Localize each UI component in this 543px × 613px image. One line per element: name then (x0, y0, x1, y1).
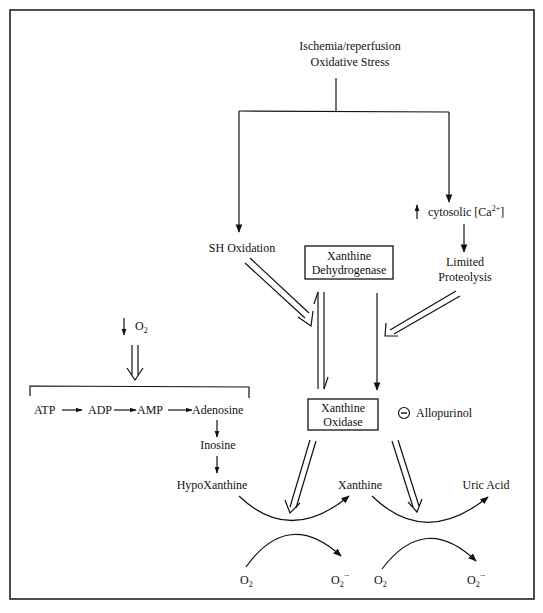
reaction1-superoxide: O2·- (331, 571, 349, 589)
atp-chain-bracket (30, 386, 249, 398)
svg-text:O2·-: O2·- (331, 571, 349, 589)
cytosolic-calcium-label: cytosolic [Ca2+] (417, 204, 504, 219)
svg-text:Adenosine: Adenosine (192, 403, 243, 417)
reaction2-superoxide: O2·- (467, 571, 485, 589)
svg-text:O2: O2 (374, 573, 387, 589)
dehydrogenase-oxidase-equilibrium-arrows (314, 292, 377, 390)
svg-text:ATP: ATP (34, 403, 56, 417)
reaction1-oxygen: O2 (240, 573, 253, 589)
title-oxidative-stress: Oxidative Stress (311, 55, 390, 69)
allopurinol-inhibitor: Allopurinol (399, 406, 473, 420)
hypoxanthine-label: HypoXanthine (177, 478, 248, 492)
svg-text:O2: O2 (240, 573, 253, 589)
svg-text:cytosolic [Ca2+]: cytosolic [Ca2+] (428, 204, 504, 219)
diagram-frame (10, 10, 534, 599)
xanthine-oxidase-pathway-diagram: Ischemia/reperfusion Oxidative Stress SH… (0, 0, 543, 613)
sh-oxidation-conversion-arrow (245, 258, 313, 326)
xanthine-label: Xanthine (338, 478, 382, 492)
svg-text:Dehydrogenase: Dehydrogenase (312, 263, 387, 277)
low-oxygen-hollow-arrow (127, 345, 143, 380)
inosine-label: Inosine (200, 438, 235, 452)
atp-degradation-chain: ATP ADP AMP Adenosine (34, 403, 243, 417)
svg-text:AMP: AMP (137, 403, 163, 417)
limited-label: Limited (446, 255, 484, 269)
uric-acid-label: Uric Acid (463, 478, 510, 492)
svg-text:O2: O2 (135, 319, 148, 335)
proteolysis-label: Proteolysis (438, 270, 492, 284)
proteolysis-conversion-arrow (385, 291, 460, 336)
low-oxygen-label: O2 (124, 318, 148, 335)
reaction-xanthine-to-uric-acid (372, 496, 488, 569)
reaction2-oxygen: O2 (374, 573, 387, 589)
xanthine-dehydrogenase-box: Xanthine Dehydrogenase (305, 246, 393, 279)
svg-text:ADP: ADP (88, 403, 112, 417)
title-ischemia: Ischemia/reperfusion (299, 39, 400, 53)
svg-text:Xanthine: Xanthine (321, 401, 365, 415)
svg-text:O2·-: O2·- (467, 571, 485, 589)
svg-text:Oxidase: Oxidase (323, 415, 362, 429)
sh-oxidation-label: SH Oxidation (209, 241, 275, 255)
xanthine-oxidase-box: Xanthine Oxidase (308, 399, 378, 430)
svg-text:Allopurinol: Allopurinol (416, 406, 473, 420)
svg-text:Xanthine: Xanthine (327, 249, 371, 263)
reaction-hypoxanthine-to-xanthine (239, 496, 349, 567)
oxidase-to-reaction1-arrow (285, 440, 316, 513)
oxidase-to-reaction2-arrow (392, 440, 422, 512)
